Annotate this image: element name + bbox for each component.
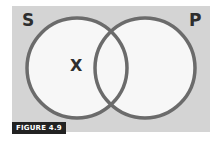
existence-mark-x: X (70, 56, 82, 75)
set-label-s: S (22, 10, 34, 30)
figure-caption: FIGURE 4.9 (12, 122, 66, 134)
set-label-p: P (189, 10, 201, 30)
